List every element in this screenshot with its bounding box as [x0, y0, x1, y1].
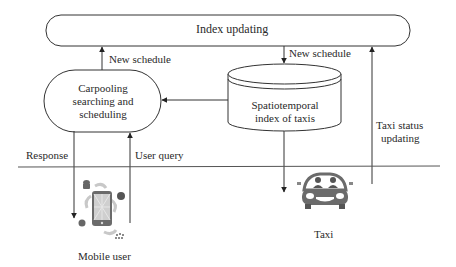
spatiotemporal-index-label: Spatiotemporal index of taxis — [236, 99, 334, 125]
apple-icon — [79, 220, 86, 227]
new-schedule-left-label: New schedule — [109, 53, 171, 66]
carpooling-label-line1: Carpooling — [62, 82, 144, 95]
taxi-status-label: Taxi status updating — [376, 119, 423, 145]
spatiotemporal-label-line2: index of taxis — [236, 112, 334, 125]
new-schedule-right-label: New schedule — [289, 47, 351, 60]
smartphone-icon — [79, 180, 126, 239]
taxi-status-line1: Taxi status — [376, 119, 423, 132]
android-icon — [83, 183, 90, 189]
index-updating-label: Index updating — [196, 23, 268, 36]
blackberry-icon — [115, 233, 124, 239]
mobile-user-label: Mobile user — [78, 250, 131, 263]
divider-line — [18, 166, 440, 167]
taxi-label: Taxi — [314, 228, 333, 241]
carpooling-label-line2: searching and — [62, 95, 144, 108]
user-query-label: User query — [135, 149, 184, 162]
response-label: Response — [26, 149, 68, 162]
taxi-status-line2: updating — [376, 132, 423, 145]
spatiotemporal-label-line1: Spatiotemporal — [236, 99, 334, 112]
carpooling-label: Carpooling searching and scheduling — [62, 82, 144, 121]
app-logo-icon — [117, 192, 125, 200]
taxi-car-icon — [297, 174, 353, 209]
carpooling-label-line3: scheduling — [62, 108, 144, 121]
